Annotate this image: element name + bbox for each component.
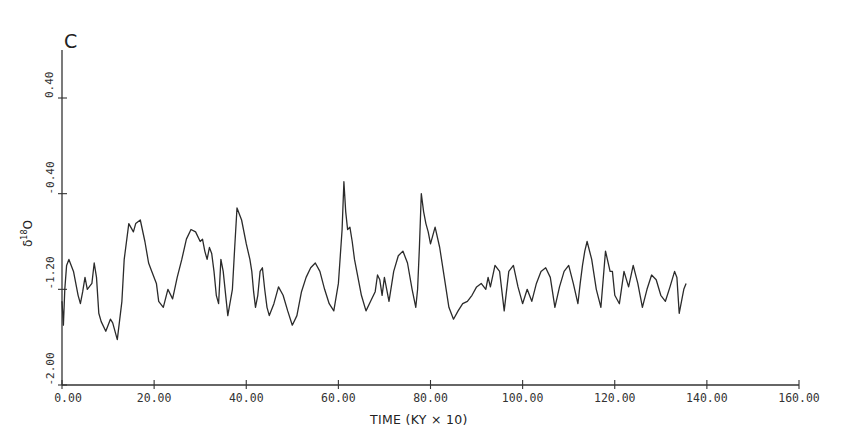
y-tick-label: -2.00	[44, 352, 57, 386]
y-axis-title: δ18O	[20, 220, 35, 247]
y-tick-label: -0.40	[44, 160, 57, 194]
plot-area	[0, 0, 854, 446]
x-tick-label: 100.00	[502, 391, 544, 405]
delta18o-series-line	[62, 182, 686, 340]
y-tick-label: -1.20	[44, 256, 57, 290]
x-tick-label: 0.00	[54, 391, 82, 405]
y-title-o: O	[21, 220, 35, 229]
x-tick-label: 140.00	[686, 391, 728, 405]
y-title-delta: δ	[21, 240, 35, 247]
y-tick-label: 0.40	[43, 71, 56, 98]
x-tick-label: 120.00	[594, 391, 636, 405]
x-tick-label: 40.00	[229, 391, 264, 405]
x-axis-title: TIME (KY × 10)	[370, 412, 468, 427]
x-tick-label: 20.00	[137, 391, 172, 405]
x-tick-label: 160.00	[778, 391, 820, 405]
y-title-sup: 18	[20, 229, 29, 239]
x-tick-label: 80.00	[413, 391, 448, 405]
x-tick-label: 60.00	[321, 391, 356, 405]
